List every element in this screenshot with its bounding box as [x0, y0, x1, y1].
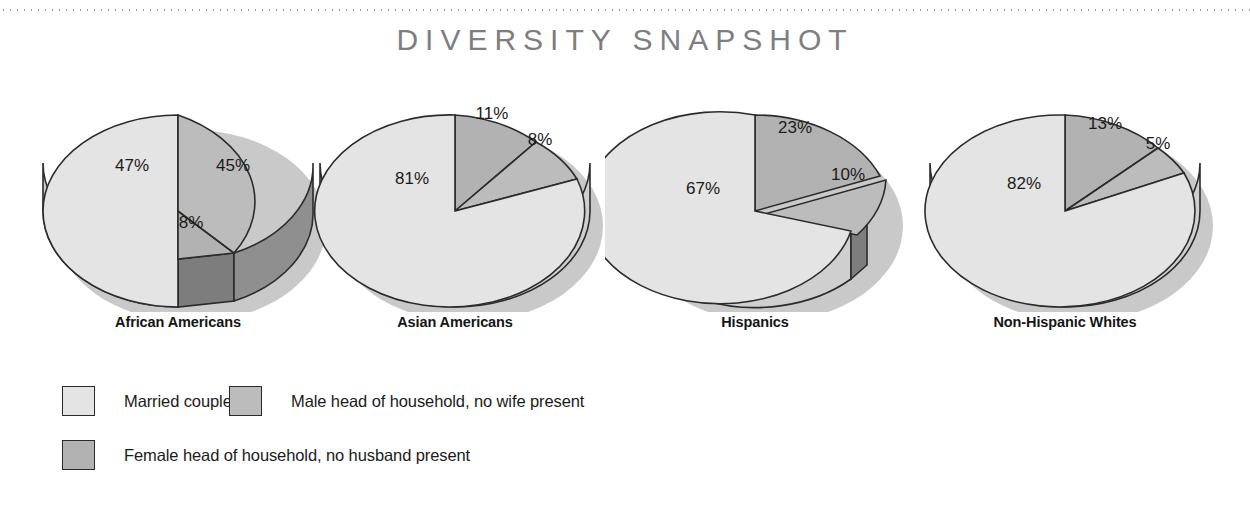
pie-2-graphic [305, 76, 605, 312]
pie-2-label-male: 8% [528, 130, 553, 150]
pie-chart-row: 47% 45% 8% African Americans 11% 8% 81% … [0, 76, 1250, 316]
pie-1-label-female: 8% [179, 213, 204, 233]
page-title: DIVERSITY SNAPSHOT [0, 23, 1250, 57]
pie-4-label-male: 5% [1146, 134, 1171, 154]
legend-row-2: Female head of household, no husband pre… [0, 440, 1250, 486]
pie-chart-hispanics: 23% 10% 67% Hispanics [605, 76, 905, 326]
pie-chart-asian-americans: 11% 8% 81% Asian Americans [305, 76, 605, 326]
pie-4-label-married: 82% [1007, 174, 1041, 194]
pie-1-label-married: 47% [115, 156, 149, 176]
pie-3-category-label: Hispanics [605, 314, 905, 330]
pie-1-graphic [28, 76, 328, 312]
pie-4-label-female: 13% [1088, 114, 1122, 134]
pie-1-slice-married [43, 115, 178, 307]
top-dotted-divider [0, 9, 1250, 11]
pie-2-label-married: 81% [395, 169, 429, 189]
pie-2-label-female: 11% [476, 104, 509, 124]
pie-3-label-female: 23% [778, 118, 812, 138]
legend: Married couple Male head of household, n… [0, 386, 1250, 506]
pie-1-wall-female [178, 253, 234, 307]
legend-label-male-head: Male head of household, no wife present [291, 392, 584, 411]
legend-label-married-couple: Married couple [124, 392, 232, 411]
legend-swatch-male-head-icon [229, 386, 262, 416]
pie-3-graphic [605, 76, 905, 312]
pie-3-label-male: 10% [831, 165, 865, 185]
pie-chart-non-hispanic-whites: 13% 5% 82% Non-Hispanic Whites [915, 76, 1215, 326]
legend-row-1: Married couple Male head of household, n… [0, 386, 1250, 432]
pie-4-graphic [915, 76, 1215, 312]
legend-swatch-female-head-icon [62, 440, 95, 470]
pie-1-category-label: African Americans [28, 314, 328, 330]
pie-3-label-married: 67% [686, 179, 720, 199]
pie-4-category-label: Non-Hispanic Whites [915, 314, 1215, 330]
legend-label-female-head: Female head of household, no husband pre… [124, 446, 470, 465]
legend-swatch-married-couple-icon [62, 386, 95, 416]
pie-1-label-male: 45% [216, 156, 250, 176]
pie-2-category-label: Asian Americans [305, 314, 605, 330]
diversity-snapshot-figure: DIVERSITY SNAPSHOT 47% 45% 8% African Am… [0, 0, 1250, 523]
legend-item-female-head[interactable]: Female head of household, no husband pre… [62, 440, 470, 470]
pie-chart-african-americans: 47% 45% 8% African Americans [28, 76, 328, 326]
legend-item-married-couple[interactable]: Married couple [62, 386, 232, 416]
legend-item-male-head[interactable]: Male head of household, no wife present [229, 386, 584, 416]
